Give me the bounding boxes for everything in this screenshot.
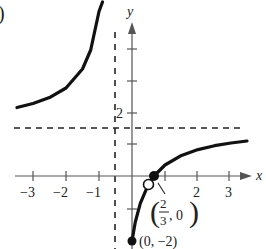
x-axis-label: x [255,168,263,183]
y-intercept-point [128,237,137,246]
panel-label: ) [0,2,5,25]
svg-text:(: ( [150,195,160,229]
x-axis-arrow-icon [240,172,252,180]
x-intercept-point [149,171,159,181]
y-axis-label: y [125,4,134,19]
x-tick-label: 3 [225,185,232,200]
rational-function-graph: ) x y −3 −2 −1 2 3 2 ( 2 [0,0,266,249]
fraction-numerator: 2 [160,196,167,211]
x-tick-label: −1 [86,185,101,200]
y-intercept-label: (0, −2) [139,234,178,249]
y-tick-label: 2 [116,106,123,121]
fraction-denominator: 3 [160,213,167,228]
svg-text:): ) [189,195,199,229]
x-intercept-label: ( 2 3 , 0 ) [150,195,199,229]
point-label-rest: , 0 [169,208,183,223]
left-branch-curve [17,2,103,108]
x-tick-label: −3 [20,185,35,200]
x-tick-label: −2 [53,185,68,200]
y-axis-arrow-icon [128,22,136,34]
leader-line [158,183,165,194]
open-point-hole [144,180,154,190]
